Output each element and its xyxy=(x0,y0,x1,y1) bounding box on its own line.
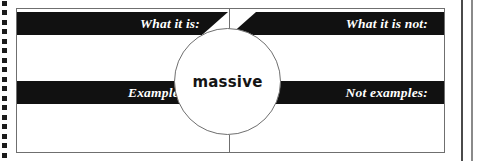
binding-hole-dot xyxy=(2,86,7,91)
quadrant-label-not-examples: Not examples: xyxy=(346,85,428,101)
binding-hole-dot xyxy=(2,67,7,72)
quadrant-header-what-it-is: What it is: xyxy=(17,12,228,35)
concept-circle: massive xyxy=(174,28,281,135)
binding-hole-dot xyxy=(2,1,7,6)
binding-hole-dot xyxy=(2,96,7,101)
frayer-model-organizer: What it is: What it is not: Examples: No… xyxy=(16,8,445,153)
quadrant-header-what-it-is-not: What it is not: xyxy=(230,12,444,35)
binding-hole-dot xyxy=(2,39,7,44)
binding-hole-dot xyxy=(2,115,7,120)
binding-hole-dot xyxy=(2,48,7,53)
binding-hole-dot xyxy=(2,77,7,82)
page-edge-rule-inner xyxy=(461,0,463,161)
page-edge-rule-outer xyxy=(471,0,473,161)
binding-hole-dot xyxy=(2,153,7,158)
binding-hole-dot xyxy=(2,143,7,148)
binding-hole-dot xyxy=(2,10,7,15)
binding-holes-column xyxy=(2,0,10,161)
concept-term: massive xyxy=(192,73,262,91)
worksheet-page: What it is: What it is not: Examples: No… xyxy=(0,0,479,161)
binding-hole-dot xyxy=(2,20,7,25)
quadrant-label-what-it-is: What it is: xyxy=(140,16,200,32)
binding-hole-dot xyxy=(2,105,7,110)
quadrant-label-what-it-is-not: What it is not: xyxy=(346,16,428,32)
binding-hole-dot xyxy=(2,58,7,63)
binding-hole-dot xyxy=(2,124,7,129)
binding-hole-dot xyxy=(2,29,7,34)
binding-hole-dot xyxy=(2,134,7,139)
